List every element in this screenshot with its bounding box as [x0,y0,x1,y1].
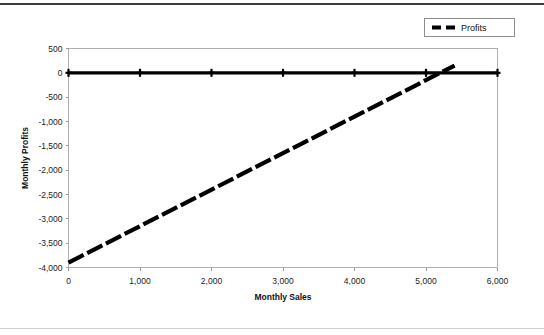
y-tick-label: -4,000 [38,263,62,273]
y-tick-label: -1,500 [38,141,62,151]
chart-page: 5000-500-1,000-1,500-2,000-2,500-3,000-3… [0,0,544,335]
x-tick-label: 6,000 [487,276,509,286]
series-line-1 [69,66,455,263]
y-tick-label: 500 [48,44,62,54]
plot-axes [69,49,498,268]
y-tick-label: 0 [58,68,63,78]
x-tick-label: 3,000 [272,276,294,286]
x-tick-label: 2,000 [201,276,223,286]
y-axis-ticks: 5000-500-1,000-1,500-2,000-2,500-3,000-3… [38,44,68,273]
monthly-profits-line-chart: 5000-500-1,000-1,500-2,000-2,500-3,000-3… [0,0,544,335]
x-tick-label: 0 [66,276,71,286]
chart-legend[interactable]: Profits [425,19,515,37]
y-tick-label: -2,500 [38,190,62,200]
data-series-layer [66,66,501,263]
y-tick-label: -3,500 [38,238,62,248]
x-tick-label: 4,000 [344,276,366,286]
y-axis-title: Monthly Profits [20,127,30,189]
x-axis-ticks: 01,0002,0003,0004,0005,0006,000 [66,268,508,286]
y-tick-label: -1,000 [38,117,62,127]
y-tick-label: -3,000 [38,214,62,224]
legend-label-profits: Profits [461,23,487,33]
x-axis-title: Monthly Sales [254,292,311,302]
x-tick-label: 5,000 [415,276,437,286]
x-tick-label: 1,000 [129,276,151,286]
y-tick-label: -2,000 [38,165,62,175]
y-tick-label: -500 [45,92,62,102]
